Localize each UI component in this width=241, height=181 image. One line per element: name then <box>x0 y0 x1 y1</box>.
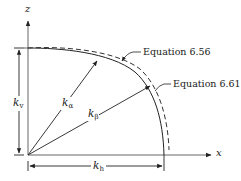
label-k-beta: kβ <box>87 108 99 121</box>
k-v-subscript: v <box>19 102 23 110</box>
k-alpha-subscript: α <box>68 102 73 110</box>
label-k-alpha: kα <box>61 97 74 110</box>
x-axis-label: x <box>216 148 222 158</box>
curve-equation-6-61 <box>28 48 164 155</box>
k-h-subscript: h <box>99 165 104 173</box>
z-axis-label: z <box>25 4 30 14</box>
curve-equation-6-56 <box>28 48 169 150</box>
k-beta-subscript: β <box>94 113 98 121</box>
leader-equation-6-61 <box>155 84 171 91</box>
label-k-h: kh <box>91 160 106 173</box>
diagram-canvas <box>0 0 241 181</box>
label-equation-6-56: Equation 6.56 <box>143 47 211 57</box>
label-k-v: kv <box>13 96 23 111</box>
label-equation-6-61: Equation 6.61 <box>173 79 241 89</box>
leader-equation-6-56 <box>122 52 141 61</box>
